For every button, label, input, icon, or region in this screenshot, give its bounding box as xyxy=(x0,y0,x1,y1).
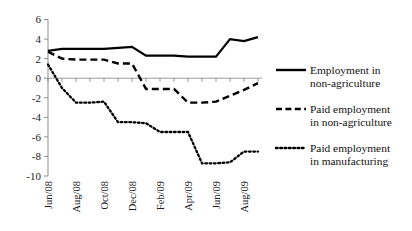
legend-label: Employment in xyxy=(310,64,381,76)
chart-legend: Employment innon-agriculturePaid employm… xyxy=(276,64,392,167)
x-tick-label: Aug/09 xyxy=(239,181,250,213)
y-tick-label: -10 xyxy=(26,170,41,182)
legend-label: Paid employment xyxy=(310,142,391,154)
series-path-solid xyxy=(48,37,258,57)
series-group xyxy=(48,37,258,163)
y-axis-tick-group: 6420-2-4-6-8-10 xyxy=(26,13,48,182)
y-tick-label: -4 xyxy=(32,111,42,123)
series-path-dashed xyxy=(48,52,258,103)
y-tick-label: -6 xyxy=(32,131,42,143)
y-tick-label: -2 xyxy=(32,92,41,104)
x-tick-label: Feb/09 xyxy=(155,181,166,210)
y-tick-label: 0 xyxy=(36,72,42,84)
chart-figure: 6420-2-4-6-8-10 Jun/08Aug/08Oct/08Dec/08… xyxy=(0,0,412,231)
x-tick-label: Aug/08 xyxy=(71,181,82,213)
x-axis-labels: Jun/08Aug/08Oct/08Dec/08Feb/09Apr/09Jun/… xyxy=(43,181,250,213)
x-tick-label: Jun/09 xyxy=(211,181,222,209)
x-tick-label: Apr/09 xyxy=(183,181,194,211)
series-path-dotted xyxy=(48,64,258,163)
legend-label: non-agriculture xyxy=(310,77,380,89)
line-chart: 6420-2-4-6-8-10 Jun/08Aug/08Oct/08Dec/08… xyxy=(0,0,412,231)
legend-label: in non-agriculture xyxy=(310,116,392,128)
y-tick-label: 4 xyxy=(36,33,42,45)
legend-label: Paid employment xyxy=(310,103,391,115)
x-tick-label: Dec/08 xyxy=(127,181,138,211)
x-axis-tick-group xyxy=(48,78,258,82)
y-tick-label: -8 xyxy=(32,150,42,162)
x-tick-label: Jun/08 xyxy=(43,181,54,209)
y-tick-label: 2 xyxy=(36,53,42,65)
legend-label: in manufacturing xyxy=(310,155,388,167)
y-tick-label: 6 xyxy=(36,13,42,25)
x-tick-label: Oct/08 xyxy=(99,181,110,210)
